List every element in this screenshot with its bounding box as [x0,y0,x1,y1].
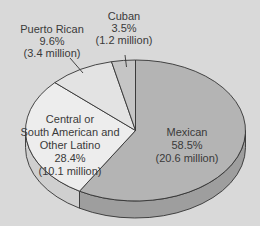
mexican-label-percent: 58.5% [171,139,202,151]
puerto-rican-label-name: Puerto Rican [20,23,84,35]
mexican-label-value: (20.6 million) [156,152,219,164]
mexican-label-name: Mexican [167,126,208,138]
central-label-value: (10.1 million) [39,165,102,177]
puerto-rican-label-value: (3.4 million) [24,47,81,59]
cuban-label-name: Cuban [108,10,140,22]
puerto-rican-label: Puerto Rican 9.6% (3.4 million) [20,23,84,59]
central-label-line2: South American and [20,126,119,138]
cuban-label-value: (1.2 million) [96,34,153,46]
central-label-percent: 28.4% [54,152,85,164]
cuban-label-percent: 3.5% [111,22,136,34]
pie-chart: Cuban 3.5% (1.2 million) Puerto Rican 9.… [0,0,260,226]
puerto-rican-label-percent: 9.6% [39,35,64,47]
cuban-label: Cuban 3.5% (1.2 million) [96,10,153,46]
central-label-line1: Central or [46,113,95,125]
central-label-line3: Other Latino [40,139,101,151]
